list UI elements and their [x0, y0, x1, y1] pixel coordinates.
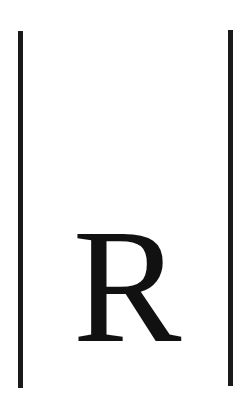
right-vertical-bar: [228, 30, 233, 386]
symbol-canvas: R: [0, 0, 248, 397]
letter-r: R: [0, 205, 248, 368]
